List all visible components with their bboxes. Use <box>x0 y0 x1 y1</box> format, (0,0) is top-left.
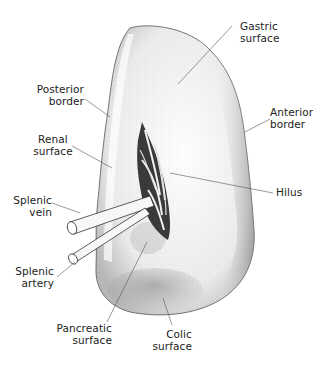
label-colic-surface: Colic surface <box>150 328 192 352</box>
label-pancreatic-surface: Pancreatic surface <box>54 322 112 346</box>
label-text: Splenic <box>14 265 54 277</box>
spleen-body <box>96 26 254 315</box>
label-text: border <box>270 118 313 130</box>
label-text: Pancreatic <box>54 322 112 334</box>
label-text: surface <box>150 340 192 352</box>
label-text: Splenic <box>12 194 52 206</box>
spleen-illustration <box>0 0 327 367</box>
label-text: Hilus <box>276 186 302 198</box>
label-anterior-border: Anterior border <box>270 106 313 130</box>
label-text: artery <box>14 277 54 289</box>
label-text: vein <box>12 206 52 218</box>
label-text: Gastric <box>240 20 280 32</box>
label-text: Renal <box>30 133 76 145</box>
label-posterior-border: Posterior border <box>30 83 84 107</box>
label-text: Colic <box>150 328 192 340</box>
label-text: surface <box>54 334 112 346</box>
label-text: surface <box>30 145 76 157</box>
label-text: border <box>30 95 84 107</box>
label-splenic-artery: Splenic artery <box>14 265 54 289</box>
label-text: Posterior <box>30 83 84 95</box>
label-gastric-surface: Gastric surface <box>240 20 280 44</box>
label-splenic-vein: Splenic vein <box>12 194 52 218</box>
label-renal-surface: Renal surface <box>30 133 76 157</box>
label-text: Anterior <box>270 106 313 118</box>
label-text: surface <box>240 32 280 44</box>
label-hilus: Hilus <box>276 186 302 198</box>
